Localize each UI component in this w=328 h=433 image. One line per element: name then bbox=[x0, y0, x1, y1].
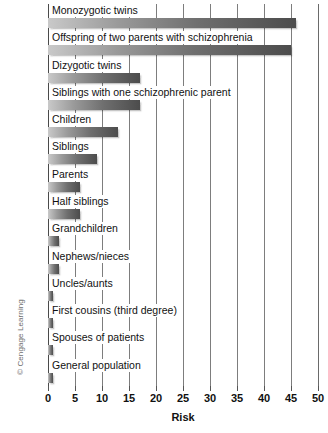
bar bbox=[48, 264, 59, 274]
bar-category-label: Siblings with one schizophrenic parent bbox=[51, 86, 233, 99]
x-tick-10 bbox=[102, 386, 103, 391]
x-tick-label-20: 20 bbox=[141, 392, 171, 404]
bar bbox=[48, 318, 53, 328]
bar bbox=[48, 127, 118, 137]
bar-category-label: First cousins (third degree) bbox=[51, 304, 179, 317]
x-tick-35 bbox=[237, 386, 238, 391]
bar bbox=[48, 182, 80, 192]
bar-category-label: Monozygotic twins bbox=[51, 4, 140, 17]
x-tick-30 bbox=[210, 386, 211, 391]
bar bbox=[48, 154, 97, 164]
chart-row: Parents bbox=[48, 168, 318, 195]
x-tick-label-15: 15 bbox=[114, 392, 144, 404]
chart-row: Monozygotic twins bbox=[48, 4, 318, 31]
bar-category-label: Grandchildren bbox=[51, 222, 120, 235]
x-tick-label-40: 40 bbox=[249, 392, 279, 404]
bar bbox=[48, 373, 53, 383]
x-tick-label-0: 0 bbox=[33, 392, 63, 404]
chart-row: Uncles/aunts bbox=[48, 277, 318, 304]
x-tick-label-45: 45 bbox=[276, 392, 306, 404]
bar-category-label: Uncles/aunts bbox=[51, 277, 115, 290]
chart-row: Nephews/nieces bbox=[48, 250, 318, 277]
bar bbox=[48, 345, 53, 355]
gridline-50 bbox=[318, 4, 319, 386]
chart-row: Spouses of patients bbox=[48, 331, 318, 358]
chart-row: Siblings with one schizophrenic parent bbox=[48, 86, 318, 113]
x-axis-tick-labels: 05101520253035404550 bbox=[0, 392, 328, 408]
chart-row: Grandchildren bbox=[48, 222, 318, 249]
bar bbox=[48, 236, 59, 246]
x-tick-label-5: 5 bbox=[60, 392, 90, 404]
bar bbox=[48, 18, 296, 28]
bar-category-label: Siblings bbox=[51, 140, 91, 153]
bar-category-label: Nephews/nieces bbox=[51, 250, 131, 263]
risk-of-schizophrenia-bar-chart: © Cengage Learning Monozygotic twinsOffs… bbox=[0, 0, 328, 433]
chart-row: First cousins (third degree) bbox=[48, 304, 318, 331]
chart-row: Dizygotic twins bbox=[48, 59, 318, 86]
bar bbox=[48, 209, 80, 219]
bar-category-label: Children bbox=[51, 113, 93, 126]
plot-area: Monozygotic twinsOffspring of two parent… bbox=[48, 4, 318, 386]
x-tick-45 bbox=[291, 386, 292, 391]
bar-category-label: General population bbox=[51, 359, 143, 372]
x-tick-5 bbox=[75, 386, 76, 391]
x-tick-0 bbox=[48, 386, 49, 391]
x-axis-title: Risk bbox=[48, 411, 318, 423]
chart-row: Half siblings bbox=[48, 195, 318, 222]
chart-row: General population bbox=[48, 359, 318, 386]
bar-category-label: Offspring of two parents with schizophre… bbox=[51, 31, 255, 44]
chart-row: Siblings bbox=[48, 140, 318, 167]
bar bbox=[48, 291, 53, 301]
bar-category-label: Spouses of patients bbox=[51, 331, 146, 344]
x-tick-label-10: 10 bbox=[87, 392, 117, 404]
x-tick-label-25: 25 bbox=[168, 392, 198, 404]
x-tick-15 bbox=[129, 386, 130, 391]
x-tick-40 bbox=[264, 386, 265, 391]
x-tick-label-30: 30 bbox=[195, 392, 225, 404]
bar-category-label: Dizygotic twins bbox=[51, 59, 123, 72]
x-tick-20 bbox=[156, 386, 157, 391]
x-tick-50 bbox=[318, 386, 319, 391]
copyright-credit: © Cengage Learning bbox=[14, 282, 28, 392]
bar bbox=[48, 73, 140, 83]
chart-row: Children bbox=[48, 113, 318, 140]
bar bbox=[48, 100, 140, 110]
bar-category-label: Half siblings bbox=[51, 195, 111, 208]
chart-row: Offspring of two parents with schizophre… bbox=[48, 31, 318, 58]
x-tick-label-50: 50 bbox=[303, 392, 328, 404]
x-tick-label-35: 35 bbox=[222, 392, 252, 404]
bar bbox=[48, 45, 291, 55]
bar-category-label: Parents bbox=[51, 168, 90, 181]
x-tick-25 bbox=[183, 386, 184, 391]
